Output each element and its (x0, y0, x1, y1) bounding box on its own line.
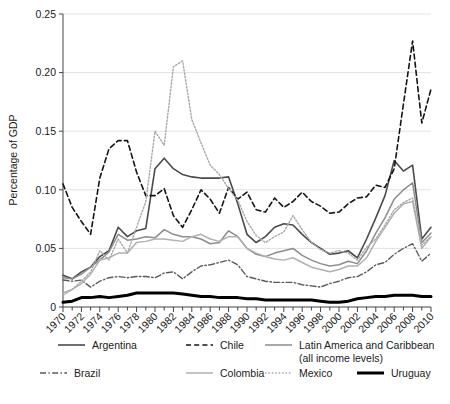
legend-label-mexico: Mexico (299, 367, 332, 379)
y-tick-label: 0.20 (36, 66, 57, 78)
legend-label-argentina: Argentina (92, 339, 137, 351)
y-tick-label: 0 (50, 301, 56, 313)
legend-label-uruguay: Uruguay (391, 367, 431, 379)
legend-label-latin-america-and-caribbean-line2: (all income levels) (299, 352, 383, 364)
chart-figure: 00.050.100.150.200.25 197019721974197619… (0, 0, 450, 404)
y-tick-label: 0.25 (36, 8, 57, 20)
y-axis-title: Percentage of GDP (7, 114, 19, 205)
gdp-line-chart: 00.050.100.150.200.25 197019721974197619… (0, 0, 450, 404)
y-tick-label: 0.15 (36, 125, 57, 137)
y-tick-label: 0.05 (36, 242, 57, 254)
legend-label-colombia: Colombia (220, 367, 265, 379)
legend-label-chile: Chile (220, 339, 244, 351)
legend-label-latin-america-and-caribbean: Latin America and Caribbean (299, 339, 435, 351)
y-tick-label: 0.10 (36, 184, 57, 196)
legend-label-brazil: Brazil (74, 367, 100, 379)
